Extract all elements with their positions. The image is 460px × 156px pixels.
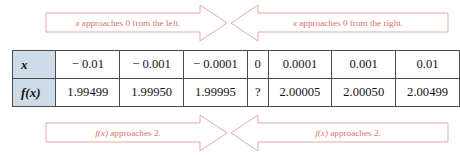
- annotation-text-fx-right: approaches 2.: [328, 128, 381, 138]
- cell-x-2: − 0.0001: [184, 51, 248, 79]
- annotation-symbol-fx-left: f(x): [95, 128, 108, 138]
- annotation-symbol-fx-right: f(x): [315, 128, 328, 138]
- cell-fx-5: 2.00050: [332, 79, 396, 107]
- cell-x-6: 0.01: [396, 51, 460, 79]
- annotation-text-fx-left: approaches 2.: [108, 128, 161, 138]
- values-table: x − 0.01 − 0.001 − 0.0001 0 0.0001 0.001…: [12, 50, 460, 107]
- table-row-x: x − 0.01 − 0.001 − 0.0001 0 0.0001 0.001…: [13, 51, 460, 79]
- annotation-x-approaches-from-left: x approaches 0 from the left.: [48, 0, 208, 46]
- bottom-annotation-band: f(x) approaches 2. f(x) approaches 2.: [0, 110, 460, 156]
- limit-table-figure: x approaches 0 from the left. x approach…: [0, 0, 460, 156]
- annotation-text-x-right: approaches 0 from the right.: [297, 18, 403, 28]
- cell-x-1: − 0.001: [120, 51, 184, 79]
- cell-x-0: − 0.01: [56, 51, 120, 79]
- annotation-fx-approaches-left: f(x) approaches 2.: [48, 110, 208, 156]
- cell-x-4: 0.0001: [268, 51, 332, 79]
- cell-x-5: 0.001: [332, 51, 396, 79]
- cell-fx-2: 1.99995: [184, 79, 248, 107]
- annotation-x-approaches-from-right: x approaches 0 from the right.: [258, 0, 438, 46]
- table-row-fx: f(x) 1.99499 1.99950 1.99995 ? 2.00005 2…: [13, 79, 460, 107]
- cell-fx-4: 2.00005: [268, 79, 332, 107]
- cell-fx-1: 1.99950: [120, 79, 184, 107]
- annotation-fx-approaches-right: f(x) approaches 2.: [258, 110, 438, 156]
- cell-fx-3: ?: [247, 79, 268, 107]
- row-label-x: x: [13, 51, 56, 79]
- cell-x-3: 0: [247, 51, 268, 79]
- cell-fx-0: 1.99499: [56, 79, 120, 107]
- cell-fx-6: 2.00499: [396, 79, 460, 107]
- annotation-text-x-left: approaches 0 from the left.: [80, 18, 181, 28]
- row-label-fx: f(x): [13, 79, 56, 107]
- top-annotation-band: x approaches 0 from the left. x approach…: [0, 0, 460, 46]
